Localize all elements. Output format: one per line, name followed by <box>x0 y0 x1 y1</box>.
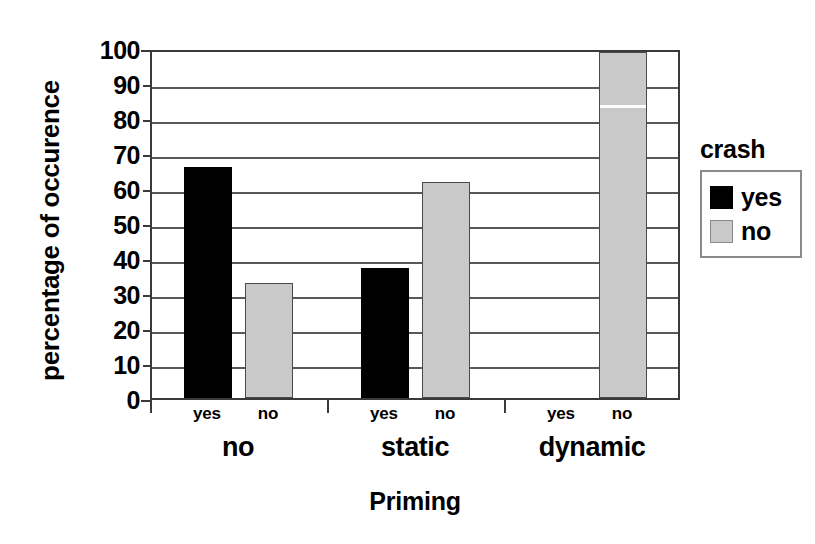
bar-static-yes <box>361 268 409 398</box>
legend: crash yes no <box>700 135 802 258</box>
y-tick-label: 50 <box>60 213 140 238</box>
x-sublabel-dynamic-no: no <box>582 404 662 424</box>
y-tick-mark-40 <box>143 260 152 262</box>
y-tick-mark-60 <box>143 190 152 192</box>
y-tick-label: 10 <box>60 353 140 378</box>
y-tick-label: 30 <box>60 283 140 308</box>
y-tick-mark-50 <box>143 225 152 227</box>
y-axis-tick-labels: 100 90 80 70 60 50 40 30 20 10 0 <box>60 50 140 400</box>
x-axis-tick-start <box>150 400 152 413</box>
x-axis-tick-sep-1 <box>327 400 329 413</box>
y-tick-mark-20 <box>143 330 152 332</box>
x-group-label-static: static <box>315 432 515 463</box>
legend-label-no: no <box>741 219 771 244</box>
y-tick-mark-100 <box>141 50 152 52</box>
bar-no-no <box>245 283 293 398</box>
y-tick-label: 0 <box>60 388 140 413</box>
legend-entry-yes: yes <box>710 180 793 214</box>
legend-label-yes: yes <box>741 185 782 210</box>
bar-dynamic-no <box>599 52 647 398</box>
bar-static-no <box>422 182 470 398</box>
y-tick-label: 60 <box>60 178 140 203</box>
legend-entry-no: no <box>710 214 793 248</box>
y-tick-mark-30 <box>143 295 152 297</box>
legend-title: crash <box>700 135 802 164</box>
x-group-label-dynamic: dynamic <box>492 432 692 463</box>
y-tick-mark-10 <box>143 365 152 367</box>
x-axis-title: Priming <box>150 487 680 516</box>
x-group-label-no: no <box>138 432 338 463</box>
y-tick-label: 70 <box>60 143 140 168</box>
y-tick-label: 90 <box>60 73 140 98</box>
legend-box: yes no <box>700 170 802 258</box>
y-tick-label: 20 <box>60 318 140 343</box>
bar-no-yes <box>184 167 232 398</box>
y-tick-mark-70 <box>143 155 152 157</box>
y-tick-label: 100 <box>60 38 140 63</box>
bar-chart: percentage of occurence 100 90 80 70 60 … <box>0 0 815 544</box>
y-tick-mark-80 <box>143 120 152 122</box>
x-axis-tick-sep-2 <box>504 400 506 413</box>
x-sublabel-static-no: no <box>405 404 485 424</box>
x-sublabel-no-no: no <box>228 404 308 424</box>
plot-area <box>150 50 680 400</box>
legend-swatch-yes-icon <box>710 186 733 209</box>
y-tick-label: 40 <box>60 248 140 273</box>
y-tick-label: 80 <box>60 108 140 133</box>
y-tick-mark-90 <box>143 85 152 87</box>
legend-swatch-no-icon <box>710 220 733 243</box>
scan-artifact <box>600 105 646 108</box>
